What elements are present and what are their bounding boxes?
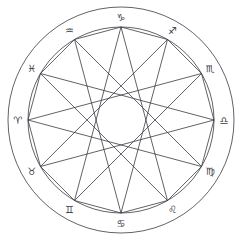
zodiac-glyph-sagittarius: ♐ <box>168 25 177 36</box>
chord <box>75 27 122 39</box>
zodiac-glyph-aries: ♈ <box>14 115 23 126</box>
chord <box>40 39 167 166</box>
chord <box>202 120 214 167</box>
zodiac-glyph-gemini: ♊ <box>65 204 74 215</box>
zodiac-wheel-diagram: ♑♐♏♎♍♌♋♊♉♈♓♒ <box>0 0 243 240</box>
chord <box>28 74 202 121</box>
chord <box>40 74 167 201</box>
chord <box>168 39 202 73</box>
chord <box>202 74 214 121</box>
outer-circle <box>8 7 234 233</box>
chord <box>75 74 202 201</box>
zodiac-glyph-virgo: ♍ <box>206 166 215 177</box>
chord <box>28 120 40 167</box>
chord <box>28 74 40 121</box>
zodiac-glyph-libra: ♎ <box>220 115 229 126</box>
zodiac-glyph-capricorn: ♑ <box>117 12 126 23</box>
zodiac-glyph-taurus: ♉ <box>27 166 36 177</box>
star-polygon-layer <box>28 27 214 213</box>
dodecagon-edges <box>28 27 214 213</box>
zodiac-glyph-scorpio: ♏ <box>206 63 215 74</box>
chord <box>121 27 168 201</box>
inner-circle <box>28 27 214 213</box>
chord <box>75 201 122 213</box>
zodiac-glyph-leo: ♌ <box>168 204 177 215</box>
zodiac-glyph-cancer: ♋ <box>117 218 126 229</box>
zodiac-wheel-svg: ♑♐♏♎♍♌♋♊♉♈♓♒ <box>0 0 243 240</box>
chord <box>40 167 74 201</box>
zodiac-glyph-aquarius: ♒ <box>65 25 74 36</box>
chord <box>75 39 122 213</box>
chord <box>40 74 214 121</box>
chord <box>75 27 122 201</box>
zodiac-glyph-pisces: ♓ <box>27 63 36 74</box>
chord <box>28 120 202 167</box>
star-12-5 <box>28 27 214 213</box>
chord <box>121 201 168 213</box>
chord <box>121 27 168 39</box>
chord <box>168 167 202 201</box>
chord <box>121 39 168 213</box>
chord <box>40 39 74 73</box>
chord <box>40 120 214 167</box>
zodiac-glyph-layer: ♑♐♏♎♍♌♋♊♉♈♓♒ <box>14 12 229 229</box>
chord <box>75 39 202 166</box>
circles-group <box>8 7 234 233</box>
